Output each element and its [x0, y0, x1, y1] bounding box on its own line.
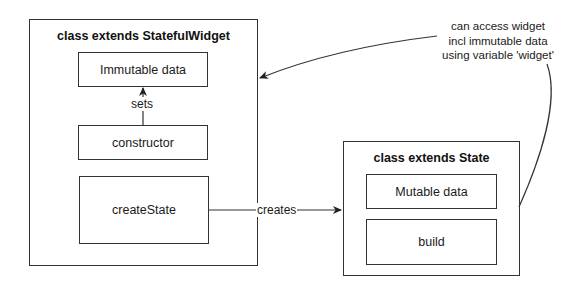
constructor-box: constructor	[78, 125, 208, 160]
create-state-label: createState	[112, 203, 176, 217]
stateful-widget-title: class extends StatefulWidget	[30, 29, 257, 43]
create-state-box: createState	[79, 176, 209, 244]
state-title: class extends State	[344, 151, 519, 165]
mutable-data-box: Mutable data	[366, 174, 497, 209]
note-line-1: can access widget	[432, 19, 564, 34]
build-box: build	[366, 219, 497, 265]
immutable-data-label: Immutable data	[100, 63, 186, 77]
creates-label: creates	[256, 203, 297, 217]
mutable-data-label: Mutable data	[395, 185, 467, 199]
note-line-2: incl immutable data	[432, 34, 564, 49]
widget-access-note: can access widget incl immutable data us…	[432, 19, 564, 63]
widget-access-arrow	[260, 36, 437, 78]
diagram-canvas: class extends StatefulWidget Immutable d…	[0, 0, 583, 287]
note-connector	[519, 64, 551, 207]
note-line-3: using variable 'widget'	[432, 48, 564, 63]
build-label: build	[418, 235, 444, 249]
sets-label: sets	[131, 97, 153, 111]
constructor-label: constructor	[112, 136, 174, 150]
immutable-data-box: Immutable data	[78, 52, 208, 87]
